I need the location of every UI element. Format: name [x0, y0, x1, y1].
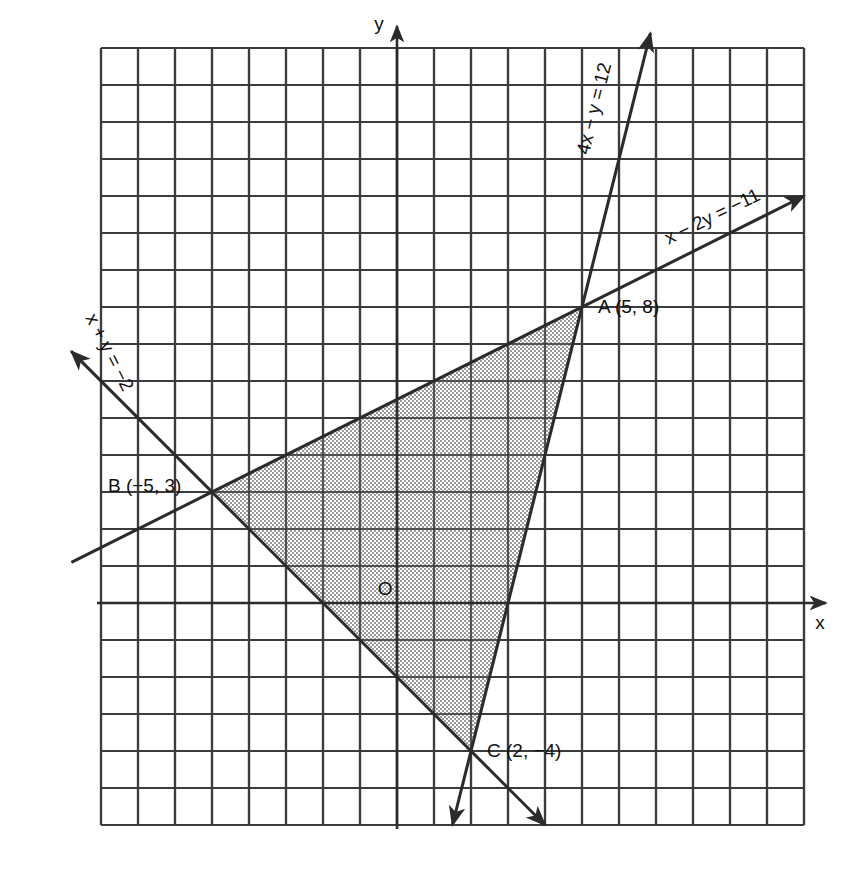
origin-label: O	[378, 578, 393, 599]
vertex-label-c: C (2, −4)	[487, 740, 561, 761]
equation-label-line-x-2y-neg11: x − 2y = −11	[661, 184, 763, 248]
graph-figure: 4x − y = 12x − 2y = −11x + y = −2A (5, 8…	[0, 0, 845, 873]
coordinate-plane-svg: 4x − y = 12x − 2y = −11x + y = −2A (5, 8…	[0, 0, 845, 873]
vertex-label-b: B (−5, 3)	[108, 475, 181, 496]
y-axis-label: y	[374, 13, 384, 34]
x-axis-label: x	[815, 612, 825, 633]
vertex-label-a: A (5, 8)	[598, 296, 659, 317]
equation-label-line-4x-y-12: 4x − y = 12	[572, 60, 615, 156]
